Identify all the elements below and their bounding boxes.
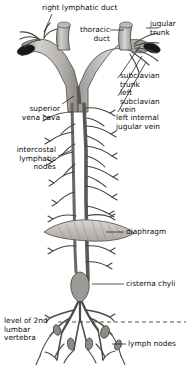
label-lymph-nodes: lymph nodes (128, 340, 176, 349)
leader-right-lymphatic-duct (44, 14, 52, 32)
anatomy-artwork (0, 0, 190, 365)
label-intercostal-lymphatic-nodes: intercostal lymphatic nodes (2, 146, 56, 172)
label-jugular-trunk: jugular trunk (150, 20, 176, 37)
lymphatic-system-diagram: right lymphatic duct thoracic duct jugul… (0, 0, 190, 365)
thoracic-duct-accessory (72, 104, 76, 272)
label-subclavian-trunk: subclavian trunk (120, 72, 160, 89)
thoracic-duct-group (72, 86, 88, 280)
label-superior-vena-cava: superior vena cava (2, 105, 60, 122)
diaphragm-shape (44, 220, 134, 241)
diaphragm-group (44, 220, 134, 241)
left-internal-jugular-vein (119, 26, 133, 50)
label-cisterna-chyli: cisterna chyli (126, 280, 175, 289)
thoracic-duct-main (84, 104, 88, 280)
cisterna-chyli-shape (71, 272, 89, 302)
jugular-subclavian-trunk-group (130, 33, 159, 72)
label-level-of-2nd-lumbar-vertebra: level of 2nd lumbar vertebra (4, 317, 48, 343)
label-thoracic-duct: thoracic duct (58, 26, 110, 43)
lumbar-trunks-group (36, 302, 125, 365)
label-left-internal-jugular-vein: left internal jugular vein (116, 114, 160, 131)
label-diaphragm: diaphragm (126, 228, 166, 237)
thoracic-duct-arch (78, 86, 80, 104)
label-left-subclavian-vein: left subclavian vein (120, 89, 160, 115)
label-right-lymphatic-duct: right lymphatic duct (42, 4, 117, 13)
left-jugular-opening (120, 22, 133, 28)
